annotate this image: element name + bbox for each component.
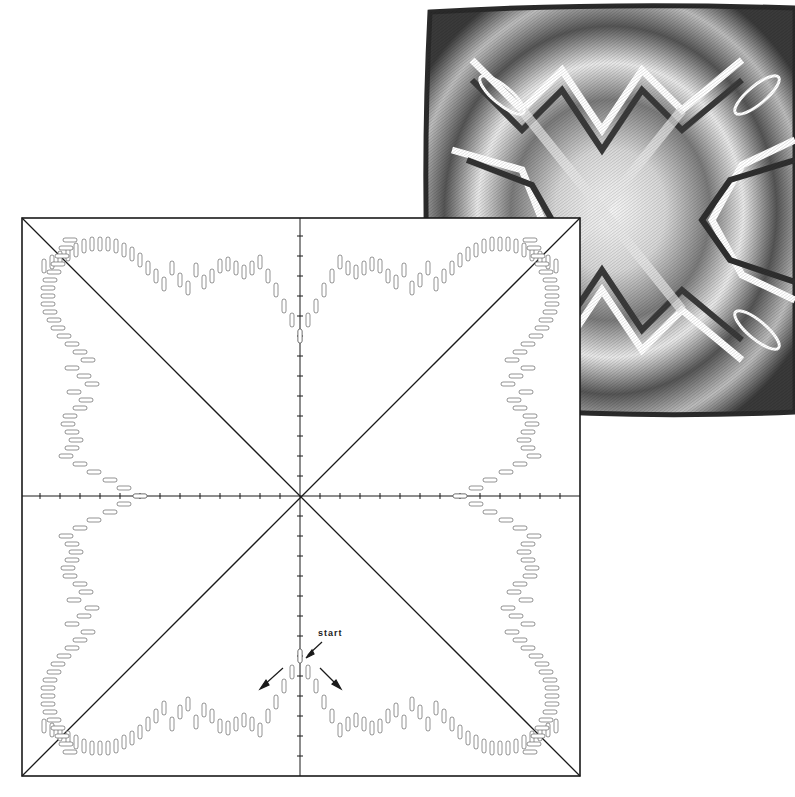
start-label: start — [318, 628, 343, 638]
bargello-diagram — [0, 0, 795, 797]
